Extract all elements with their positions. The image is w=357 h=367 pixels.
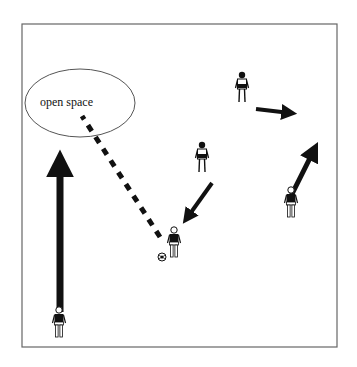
run-arrow-top-right <box>256 109 290 113</box>
ball-icon <box>158 253 166 261</box>
run-arrow-middle-to-ball <box>187 183 212 218</box>
player-top-right <box>236 72 249 102</box>
player-middle <box>196 142 209 172</box>
pass-line-dashed <box>82 116 160 237</box>
player-with-ball <box>168 227 181 257</box>
player-bottom-left <box>53 307 66 337</box>
open-space-label: open space <box>40 95 93 110</box>
field-border <box>22 24 337 347</box>
soccer-diagram <box>0 0 357 367</box>
